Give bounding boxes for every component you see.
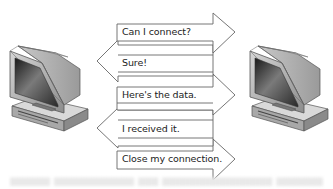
message-label: Close my connection.: [122, 153, 222, 164]
message-label: Sure!: [122, 57, 147, 68]
faint-background-text: ▆▆▆▆ ▆▆▆▆▆▆▆▆ ▆▆ ▆▆▆▆▆▆▆▆▆▆▆ ▆▆▆▆▆ ▆▆▆ ▆…: [10, 174, 323, 186]
arrow-sure: [97, 40, 213, 82]
right-computer-icon: [250, 46, 328, 131]
message-label: I received it.: [122, 123, 180, 134]
message-label: Here's the data.: [122, 89, 197, 100]
message-label: Can I connect?: [122, 26, 191, 37]
handshake-diagram: Can I connect? Sure! Here's the data. I …: [0, 0, 333, 189]
left-computer-icon: [10, 46, 88, 131]
